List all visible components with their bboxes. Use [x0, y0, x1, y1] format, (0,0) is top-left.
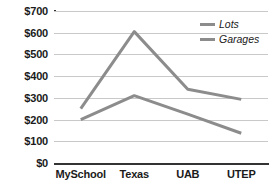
x-axis-tick-label: UAB — [176, 168, 199, 181]
y-axis-tick-label: $300 — [24, 92, 48, 103]
legend-item: Garages — [200, 33, 259, 45]
legend-swatch-icon — [200, 38, 215, 41]
series-line-garages — [81, 96, 242, 134]
line-chart: $0$100$200$300$400$500$600$700 MySchoolT… — [0, 0, 274, 191]
x-axis-tick-label: MySchool — [56, 168, 106, 181]
y-axis-tick-label: $200 — [24, 114, 48, 125]
y-axis-tick-label: $700 — [24, 6, 48, 17]
legend-item: Lots — [200, 18, 259, 30]
legend-swatch-icon — [200, 23, 215, 26]
x-axis-line — [54, 163, 269, 165]
y-axis: $0$100$200$300$400$500$600$700 — [0, 0, 52, 191]
x-axis-tick-label: UTEP — [227, 168, 256, 181]
y-axis-tick-label: $500 — [24, 49, 48, 60]
y-axis-tick-label: $400 — [24, 71, 48, 82]
legend-label: Garages — [219, 33, 259, 45]
chart-legend: LotsGarages — [200, 18, 259, 45]
legend-label: Lots — [219, 18, 239, 30]
y-axis-tick-label: $100 — [24, 136, 48, 147]
x-axis: MySchoolTexasUABUTEP — [54, 168, 269, 188]
x-axis-tick-label: Texas — [120, 168, 149, 181]
y-axis-tick-label: $0 — [36, 158, 48, 169]
y-axis-tick-label: $600 — [24, 27, 48, 38]
